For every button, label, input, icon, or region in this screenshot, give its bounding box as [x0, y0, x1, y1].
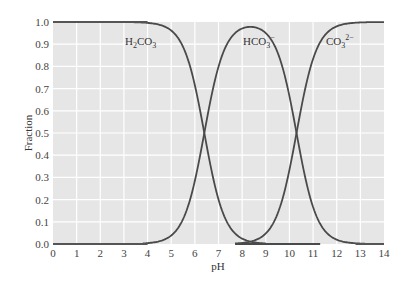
y-tick-label: 0.7 — [35, 83, 49, 95]
y-tick-label: 0.5 — [35, 127, 49, 139]
y-tick-label: 0.3 — [35, 171, 49, 183]
x-tick-label: 5 — [168, 247, 174, 259]
y-tick-label: 0.4 — [35, 149, 49, 161]
y-tick-label: 0.9 — [35, 38, 49, 50]
x-tick-label: 13 — [355, 247, 367, 259]
x-tick-label: 10 — [284, 247, 296, 259]
x-axis-title: pH — [211, 260, 225, 272]
x-tick-label: 0 — [50, 247, 56, 259]
x-tick-label: 6 — [192, 247, 198, 259]
y-tick-label: 1.0 — [35, 16, 49, 28]
y-tick-label: 0.8 — [35, 60, 49, 72]
x-axis-ticks: 01234567891011121314 — [50, 247, 390, 259]
x-tick-label: 12 — [331, 247, 342, 259]
x-tick-label: 7 — [216, 247, 222, 259]
y-tick-label: 0.6 — [35, 105, 49, 117]
speciation-chart: 0.00.10.20.30.40.50.60.70.80.91.0 012345… — [0, 0, 413, 284]
x-tick-label: 9 — [263, 247, 269, 259]
x-tick-label: 1 — [74, 247, 80, 259]
x-tick-label: 2 — [98, 247, 104, 259]
y-tick-label: 0.2 — [35, 194, 49, 206]
x-tick-label: 11 — [308, 247, 319, 259]
x-tick-label: 14 — [379, 247, 391, 259]
x-tick-label: 8 — [239, 247, 245, 259]
x-tick-label: 4 — [145, 247, 151, 259]
y-tick-label: 0.1 — [35, 216, 49, 228]
y-tick-label: 0.0 — [35, 238, 49, 250]
y-axis-ticks: 0.00.10.20.30.40.50.60.70.80.91.0 — [35, 16, 49, 250]
y-axis-title: Fraction — [22, 114, 34, 151]
x-tick-label: 3 — [121, 247, 127, 259]
